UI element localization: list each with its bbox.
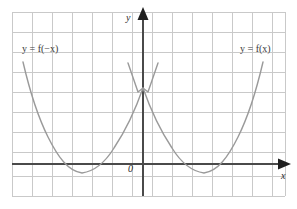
curve-f-of-x <box>128 62 263 173</box>
y-axis <box>138 7 149 196</box>
curve-label-f-of-minus-x: y = f(−x) <box>22 43 58 54</box>
x-axis-label: x <box>281 170 285 181</box>
coordinate-plane <box>0 0 297 209</box>
y-axis-arrowhead <box>138 7 149 20</box>
curve-label-f-of-x: y = f(x) <box>240 43 271 54</box>
y-axis-label: y <box>126 12 130 23</box>
curve-label-f-of-minus-x-text: y = f(−x) <box>22 43 58 54</box>
curve-f-of-minus-x <box>23 62 158 173</box>
graph-figure: y = f(−x) y = f(x) y x 0 <box>0 0 297 209</box>
origin-label: 0 <box>128 163 133 174</box>
curve-label-f-of-x-text: y = f(x) <box>240 43 271 54</box>
